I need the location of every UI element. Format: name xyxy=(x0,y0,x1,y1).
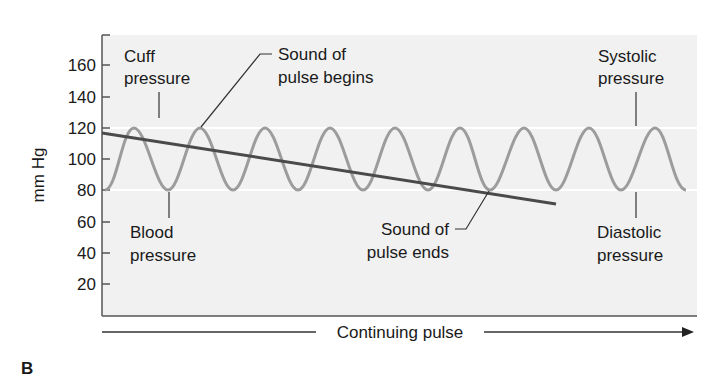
tick-60: 60 xyxy=(77,213,96,232)
systolic-label-line2: pressure xyxy=(598,69,664,88)
blood-pressure-chart: 160 140 120 100 80 60 40 20 mm Hg Cuff p… xyxy=(0,0,727,379)
tick-120: 120 xyxy=(68,119,96,138)
tick-160: 160 xyxy=(68,56,96,75)
diastolic-label-line1: Diastolic xyxy=(597,223,662,242)
y-axis-label: mm Hg xyxy=(29,148,48,203)
tick-80: 80 xyxy=(77,181,96,200)
cuff-label-line1: Cuff xyxy=(124,47,155,66)
arrowhead-icon xyxy=(682,327,694,337)
systolic-label-line1: Systolic xyxy=(598,47,657,66)
diastolic-label-line2: pressure xyxy=(597,246,663,265)
y-tick-labels: 160 140 120 100 80 60 40 20 xyxy=(68,56,96,294)
tick-20: 20 xyxy=(77,275,96,294)
ends-label-line2: pulse ends xyxy=(367,243,449,262)
tick-140: 140 xyxy=(68,88,96,107)
ends-label-line1: Sound of xyxy=(381,220,449,239)
cuff-label-line2: pressure xyxy=(124,69,190,88)
begins-label-line2: pulse begins xyxy=(278,68,373,87)
blood-label-line1: Blood xyxy=(130,223,173,242)
tick-40: 40 xyxy=(77,244,96,263)
x-axis-label: Continuing pulse xyxy=(337,323,464,342)
blood-label-line2: pressure xyxy=(130,246,196,265)
panel-label: B xyxy=(21,359,33,378)
tick-100: 100 xyxy=(68,150,96,169)
begins-label-line1: Sound of xyxy=(278,45,346,64)
